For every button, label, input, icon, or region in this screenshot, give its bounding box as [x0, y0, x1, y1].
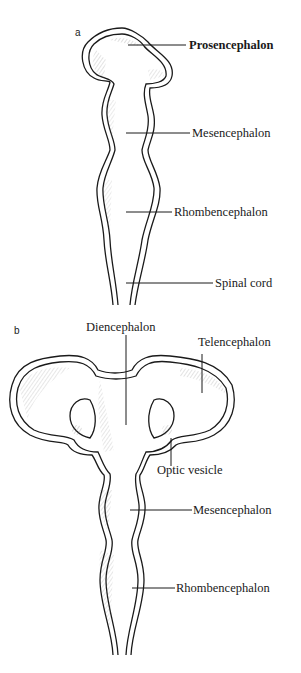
panel-label-b: b: [14, 325, 20, 336]
label-prosencephalon: Prosencephalon: [189, 39, 274, 52]
label-rhombencephalon-b: Rhombencephalon: [176, 582, 270, 595]
label-mesencephalon-a: Mesencephalon: [192, 127, 270, 140]
label-mesencephalon-b: Mesencephalon: [193, 504, 271, 517]
label-spinal-cord: Spinal cord: [215, 277, 272, 290]
label-rhombencephalon-a: Rhombencephalon: [174, 206, 268, 219]
label-optic-vesicle: Optic vesicle: [157, 464, 223, 477]
label-telencephalon: Telencephalon: [198, 336, 271, 349]
label-diencephalon: Diencephalon: [86, 321, 155, 334]
panel-label-a: a: [75, 27, 81, 38]
